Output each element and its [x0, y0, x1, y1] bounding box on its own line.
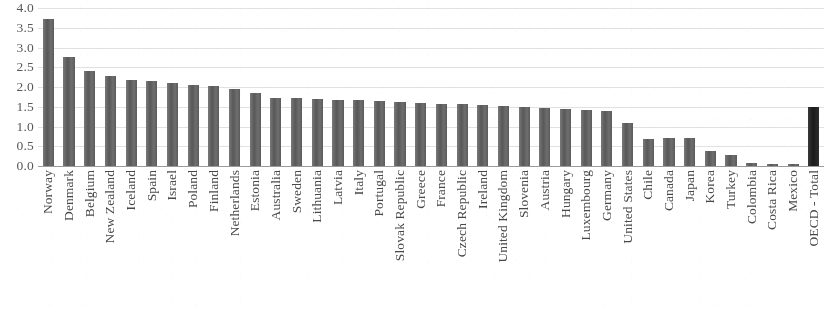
bar-slot [721, 8, 742, 166]
x-axis-tick-label: Ireland [476, 170, 490, 209]
bar[interactable] [457, 104, 468, 166]
x-axis-label-slot: OECD - Total [803, 168, 824, 308]
bar[interactable] [622, 123, 633, 166]
bar[interactable] [539, 108, 550, 167]
bar-slot [348, 8, 369, 166]
axis-baseline [38, 166, 824, 167]
bar[interactable] [808, 107, 819, 166]
bar-slot [38, 8, 59, 166]
bar-slot [369, 8, 390, 166]
bar[interactable] [560, 109, 571, 166]
bar[interactable] [705, 151, 716, 166]
x-axis-label-slot: Mexico [783, 168, 804, 308]
bar[interactable] [725, 155, 736, 166]
bar[interactable] [146, 81, 157, 166]
x-axis-tick-label: Greece [414, 170, 428, 209]
x-axis-tick-label: Czech Republic [455, 170, 469, 257]
x-axis-label-slot: Norway [38, 168, 59, 308]
bar[interactable] [353, 100, 364, 166]
x-axis-label-slot: United States [617, 168, 638, 308]
bar[interactable] [332, 100, 343, 166]
x-axis-tick-label: Korea [704, 170, 718, 203]
bar[interactable] [498, 106, 509, 166]
bar[interactable] [663, 138, 674, 166]
x-axis-label-slot: Costa Rica [762, 168, 783, 308]
x-axis-tick-label: Israel [166, 170, 180, 201]
bar-slot [224, 8, 245, 166]
bar[interactable] [746, 163, 757, 166]
x-axis-tick-label: Finland [207, 170, 221, 212]
y-axis-tick-labels: 4.03.53.02.52.01.51.00.50.0 [2, 6, 34, 166]
y-axis-tick-label: 1.0 [2, 120, 34, 134]
bar-chart-figure: 4.03.53.02.52.01.51.00.50.0 NorwayDenmar… [0, 0, 828, 309]
bar[interactable] [188, 85, 199, 166]
y-axis-tick-label: 3.5 [2, 21, 34, 35]
x-axis-tick-label: France [435, 170, 449, 207]
bar-slot [514, 8, 535, 166]
bar[interactable] [208, 86, 219, 166]
bar[interactable] [63, 57, 74, 166]
x-axis-tick-label: Latvia [331, 170, 345, 205]
bar-slot [204, 8, 225, 166]
bar[interactable] [229, 89, 240, 166]
x-axis-tick-label: Mexico [786, 170, 800, 212]
x-axis-label-slot: Czech Republic [452, 168, 473, 308]
plot-area [38, 8, 824, 166]
bar[interactable] [312, 99, 323, 166]
bar[interactable] [643, 139, 654, 166]
x-axis-tick-label: Slovak Republic [393, 170, 407, 261]
bar-slot [762, 8, 783, 166]
bar[interactable] [394, 102, 405, 166]
bar[interactable] [167, 83, 178, 166]
bar[interactable] [767, 164, 778, 166]
x-axis-label-slot: Greece [410, 168, 431, 308]
x-axis-tick-label: Lithuania [311, 170, 325, 223]
x-axis-tick-label: Austria [538, 170, 552, 210]
bar[interactable] [581, 110, 592, 166]
bar[interactable] [477, 105, 488, 166]
bar[interactable] [374, 101, 385, 166]
bar[interactable] [250, 93, 261, 166]
bar[interactable] [519, 107, 530, 166]
bar[interactable] [126, 80, 137, 166]
x-axis-label-slot: Iceland [121, 168, 142, 308]
bar[interactable] [270, 98, 281, 166]
x-axis-tick-label: Italy [352, 170, 366, 195]
bar[interactable] [291, 98, 302, 166]
bar-slot [493, 8, 514, 166]
x-axis-label-slot: Sweden [286, 168, 307, 308]
x-axis-label-slot: Ireland [472, 168, 493, 308]
bar[interactable] [43, 19, 54, 166]
x-axis-label-slot: Poland [183, 168, 204, 308]
x-axis-label-slot: Chile [638, 168, 659, 308]
x-axis-tick-label: Luxembourg [579, 170, 593, 241]
bar-slot [245, 8, 266, 166]
bar-slot [410, 8, 431, 166]
x-axis-tick-label: Slovenia [517, 170, 531, 218]
x-axis-label-slot: Finland [204, 168, 225, 308]
x-axis-label-slot: Slovak Republic [390, 168, 411, 308]
bar-slot [307, 8, 328, 166]
bar-slot [390, 8, 411, 166]
x-axis-label-slot: Estonia [245, 168, 266, 308]
bar[interactable] [436, 104, 447, 166]
bar-slot [141, 8, 162, 166]
x-axis-label-slot: Slovenia [514, 168, 535, 308]
bar-slot [59, 8, 80, 166]
x-axis-tick-label: Belgium [83, 170, 97, 217]
bar[interactable] [415, 103, 426, 166]
bar[interactable] [105, 76, 116, 166]
x-axis-tick-label: Netherlands [228, 170, 242, 236]
y-axis-tick-label: 0.0 [2, 159, 34, 173]
bar[interactable] [601, 111, 612, 166]
x-axis-label-slot: Lithuania [307, 168, 328, 308]
y-axis-tick-label: 0.5 [2, 140, 34, 154]
x-axis-label-slot: Germany [597, 168, 618, 308]
bar-slot [555, 8, 576, 166]
bar[interactable] [84, 71, 95, 166]
x-axis-tick-label: Portugal [373, 170, 387, 217]
bar[interactable] [684, 138, 695, 166]
x-axis-label-slot: United Kingdom [493, 168, 514, 308]
y-axis-tick-label: 3.0 [2, 41, 34, 55]
bar[interactable] [788, 164, 799, 166]
